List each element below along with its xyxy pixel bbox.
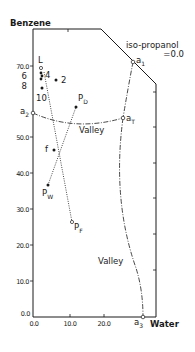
label-6: 6: [22, 71, 27, 81]
point-PW: [47, 184, 50, 187]
region-boundary: [33, 29, 156, 317]
label-PF: PF: [74, 222, 83, 234]
label-f: f: [45, 144, 49, 154]
label-L: L: [38, 55, 43, 65]
y-tick-0: 0.0: [21, 310, 30, 318]
point-PD: [75, 106, 78, 109]
x-tick-10: 10.0: [64, 320, 77, 328]
label-PW: PW: [42, 188, 53, 200]
point-L: [39, 66, 42, 69]
valley-curve-lower: [120, 118, 143, 317]
point-4a: [40, 72, 43, 75]
valley-label-upper: Valley: [79, 125, 104, 135]
x-tick-0: 0.0: [29, 320, 38, 328]
label-10: 10: [36, 93, 47, 103]
point-f: [53, 149, 56, 152]
water-label: Water: [150, 319, 180, 329]
label-a2: a2: [20, 106, 29, 118]
label-PD: PD: [78, 93, 88, 105]
point-8: [41, 87, 44, 90]
y-tick-10: 10.0: [16, 278, 29, 286]
y-axis-title: Benzene: [10, 18, 51, 28]
valley-curve-upper: [33, 113, 123, 124]
valley-label-lower: Valley: [98, 256, 123, 266]
label-2: 2: [61, 75, 66, 85]
point-aT: [121, 116, 125, 120]
label-aT: aT: [126, 113, 135, 125]
y-tick-40: 40.0: [16, 170, 29, 178]
ternary-valley-diagram: 70.0 50.0 40.0 30.0 20.0 10.0 0.0 0.0 10…: [0, 0, 195, 352]
point-2: [55, 79, 58, 82]
point-6: [40, 78, 43, 81]
y-tick-30: 30.0: [16, 206, 29, 214]
valley-curve-a1-aT: [123, 62, 133, 118]
y-tick-20: 20.0: [16, 242, 29, 250]
label-8: 8: [22, 81, 27, 91]
x-tick-20: 20.0: [98, 320, 111, 328]
point-4b: [41, 75, 44, 78]
y-tick-50: 50.0: [16, 134, 29, 142]
label-4: 4: [45, 70, 50, 80]
y-tick-70: 70.0: [16, 63, 29, 71]
point-a2: [31, 111, 35, 115]
point-a3: [141, 315, 145, 319]
point-a1: [131, 60, 135, 64]
corner-value: =0.0: [163, 49, 184, 59]
line-PW-PD: [48, 107, 76, 185]
